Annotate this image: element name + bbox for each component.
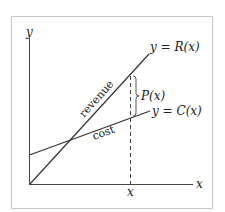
cost-line xyxy=(30,111,151,155)
profit-brace-icon xyxy=(133,76,139,116)
profit-label: P(x) xyxy=(140,89,166,103)
y-axis-label: y xyxy=(25,25,33,39)
cost-label: cost xyxy=(91,123,117,143)
revenue-label: revenue xyxy=(77,78,117,120)
revenue-line xyxy=(30,54,150,185)
x-axis-label: x xyxy=(196,177,203,191)
revenue-equation: y = R(x) xyxy=(149,40,200,54)
cost-equation: y = C(x) xyxy=(151,104,202,118)
profit-diagram: y x revenue y = R(x) cost y = C(x) x P(x… xyxy=(0,0,225,212)
x-tick-label: x xyxy=(127,185,134,199)
